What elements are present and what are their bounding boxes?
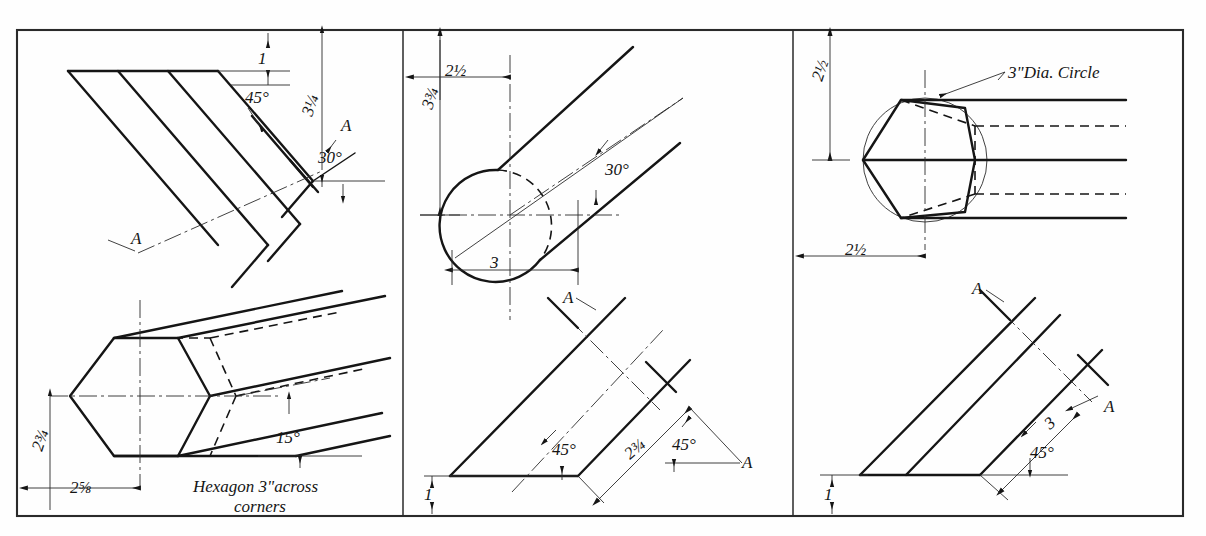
angle-45-label-mid-right: 45° <box>672 435 696 454</box>
hex-bar-oblique-upper: A A 30° 45° 1 3¼ <box>68 33 385 287</box>
dim-2-3-4-label: 2¾ <box>28 427 53 453</box>
round-bar-section-view: A 45° 2¾ 45° A 1 <box>424 288 753 514</box>
drawing-sheet: .obj { stroke:#151515; stroke-width:2.4;… <box>0 0 1206 536</box>
angle-45-label-right: 45° <box>1030 443 1054 462</box>
angled-bar-section-view: A A 3 45° 1 <box>820 279 1115 514</box>
angle-15-label: 15° <box>276 428 300 447</box>
sheet-border <box>17 30 1183 516</box>
circle-note-label: 3"Dia. Circle <box>1007 63 1100 82</box>
hex-bar-end-view-lower: 15° 2¾ 2⅝ Hexagon 3"across corners <box>27 291 390 516</box>
hexagon-in-circle-view: 3"Dia. Circle 2½ 2½ <box>803 35 1126 259</box>
hexagon-note-line2: corners <box>234 497 286 516</box>
section-label-a-upper: A <box>340 116 352 135</box>
dim-1-label: 1 <box>258 49 267 68</box>
dim-2-1-2-label-mid: 2½ <box>445 61 467 80</box>
section-label-a-mid-upper: A <box>562 288 574 307</box>
section-label-a-lower: A <box>130 229 142 248</box>
dim-2-5-8-label: 2⅝ <box>70 478 92 497</box>
angle-30-label-mid: 30° <box>604 160 629 179</box>
dim-1-label-mid: 1 <box>424 485 433 504</box>
dim-1-label-right: 1 <box>824 485 833 504</box>
angle-30-label: 30° <box>317 148 342 167</box>
hexagon-note-line1: Hexagon 3"across <box>192 477 318 496</box>
dim-2-3-4-label-mid: 2¾ <box>620 435 649 463</box>
section-label-a-right-upper: A <box>971 279 983 298</box>
dim-3-3-4-label: 3¾ <box>417 85 442 112</box>
dim-3-label-mid: 3 <box>489 253 499 272</box>
round-bar-end-view: 30° 2½ 3¾ 3 <box>413 35 683 320</box>
dim-2-1-2-label-right-v: 2½ <box>808 57 833 83</box>
dim-3-label-right: 3 <box>1040 413 1059 434</box>
dim-3-1-4-label: 3¼ <box>297 92 322 119</box>
angle-45-label: 45° <box>245 88 269 107</box>
section-label-a-mid-right: A <box>741 453 753 472</box>
section-label-a-right: A <box>1103 397 1115 416</box>
dim-2-1-2-label-right-h: 2½ <box>845 240 867 259</box>
angle-45-label-mid-left: 45° <box>552 440 576 459</box>
